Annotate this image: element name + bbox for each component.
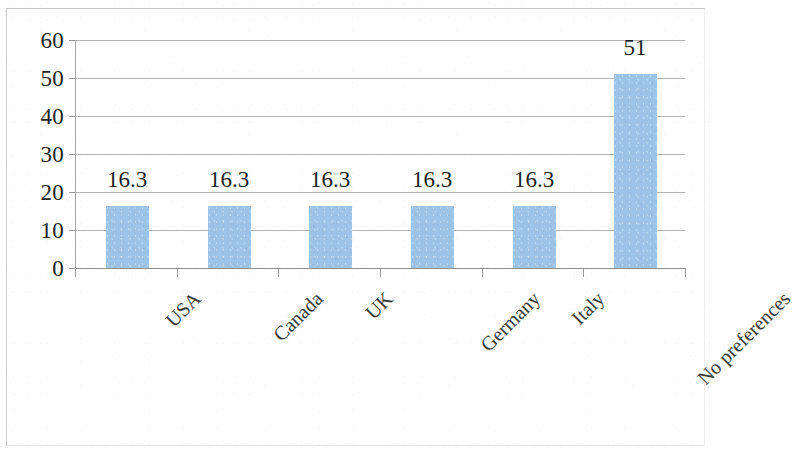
x-tick-label-italy: Italy (568, 288, 609, 329)
x-tick-label-canada: Canada (270, 288, 327, 345)
x-tick-label-uk: UK (361, 288, 396, 323)
x-tick-label-germany: Germany (477, 288, 544, 355)
x-tick-label-no-preferences: No preferences (694, 288, 794, 389)
x-tick-label-usa: USA (162, 288, 205, 331)
